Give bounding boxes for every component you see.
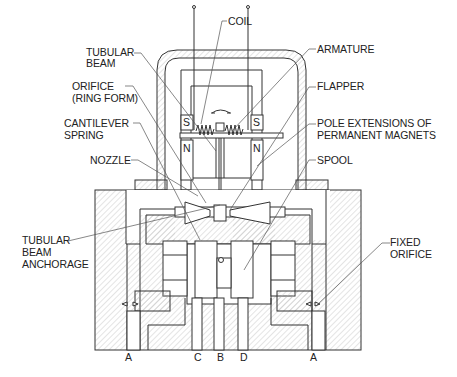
label-cantilever-line1: CANTILEVER xyxy=(64,118,129,130)
label-orifice-line2: (RING FORM) xyxy=(72,93,138,105)
label-fixed-orifice-line1: FIXED xyxy=(390,237,420,249)
label-spool: SPOOL xyxy=(317,155,353,167)
label-anchorage-line1: TUBULAR xyxy=(22,235,70,247)
label-pole-line1: POLE EXTENSIONS OF xyxy=(317,118,431,130)
port-d: D xyxy=(240,351,248,363)
label-fixed-orifice-line2: ORIFICE xyxy=(390,249,432,261)
port-a-left: A xyxy=(125,351,132,363)
magnet-n-left: N xyxy=(183,142,191,154)
label-anchorage-line3: ANCHORAGE xyxy=(22,259,89,271)
label-coil: COIL xyxy=(228,16,252,28)
port-a-right: A xyxy=(310,351,317,363)
label-orifice-line1: ORIFICE xyxy=(72,81,114,93)
label-anchorage-line2: BEAM xyxy=(22,247,51,259)
magnet-s-left: S xyxy=(183,116,190,128)
label-cantilever-line2: SPRING xyxy=(64,130,104,142)
magnet-n-right: N xyxy=(253,142,261,154)
label-armature: ARMATURE xyxy=(317,44,374,56)
label-nozzle: NOZZLE xyxy=(90,155,131,167)
port-c: C xyxy=(194,351,202,363)
servo-valve-drawing xyxy=(0,0,457,377)
port-b: B xyxy=(217,351,224,363)
label-tubular-beam-line2: BEAM xyxy=(86,58,115,70)
magnet-s-right: S xyxy=(253,116,260,128)
label-flapper: FLAPPER xyxy=(317,81,364,93)
label-pole-line2: PERMANENT MAGNETS xyxy=(317,130,436,142)
